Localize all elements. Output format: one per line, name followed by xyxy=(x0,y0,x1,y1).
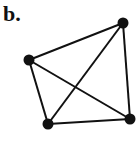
edge-top-right-bottom-right xyxy=(123,23,130,119)
node-bottom-right xyxy=(125,114,136,125)
complete-graph-k4 xyxy=(0,0,137,147)
node-top-right xyxy=(118,18,129,29)
node-left xyxy=(24,55,35,66)
graph-edges xyxy=(29,23,130,124)
node-bottom-left xyxy=(43,119,54,130)
edge-bottom-left-bottom-right xyxy=(48,119,130,124)
